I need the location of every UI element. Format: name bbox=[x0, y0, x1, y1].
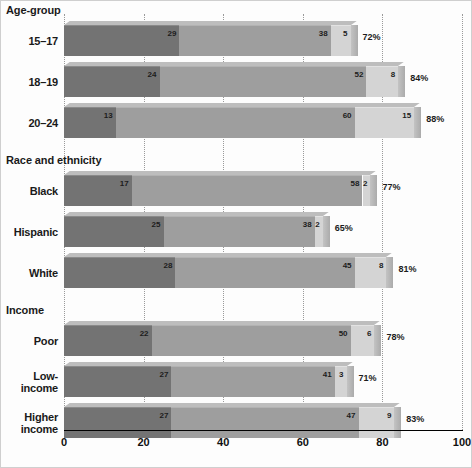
bar-right-cap bbox=[370, 175, 377, 206]
row-total-label-white: 81% bbox=[398, 264, 416, 274]
segment-value-label: 8 bbox=[379, 261, 383, 270]
bar-segment-poor-1: 22 bbox=[64, 325, 152, 356]
gridline-100 bbox=[462, 14, 464, 430]
segment-value-label: 25 bbox=[152, 220, 161, 229]
row-total-label-poor: 78% bbox=[386, 332, 404, 342]
category-label-white: White bbox=[0, 267, 58, 279]
row-total-label-higher-income: 83% bbox=[406, 414, 424, 424]
segment-value-label: 3 bbox=[339, 370, 343, 379]
bar-segment-low-income-1: 27 bbox=[64, 366, 171, 397]
row-total-label-hispanic: 65% bbox=[335, 223, 353, 233]
category-label-hispanic: Hispanic bbox=[0, 226, 58, 238]
row-total-label-low-income: 71% bbox=[359, 373, 377, 383]
segment-value-label: 2 bbox=[315, 220, 319, 229]
segment-value-label: 13 bbox=[104, 111, 113, 120]
category-label-20-24: 20–24 bbox=[0, 117, 58, 129]
segment-value-label: 58 bbox=[351, 179, 360, 188]
bar-right-cap bbox=[323, 216, 330, 247]
segment-value-label: 8 bbox=[391, 70, 395, 79]
bar-row: 22506 bbox=[64, 325, 381, 356]
x-tick-label-0: 0 bbox=[61, 436, 67, 448]
bar-segment-white-3: 8 bbox=[355, 257, 387, 288]
bar-segment-18-19-2: 52 bbox=[160, 66, 367, 97]
bar-segment-poor-3: 6 bbox=[351, 325, 375, 356]
bar-segment-hispanic-2: 38 bbox=[164, 216, 315, 247]
bar-right-cap bbox=[398, 66, 405, 97]
bar-right-cap bbox=[351, 25, 358, 56]
segment-value-label: 24 bbox=[148, 70, 157, 79]
bar-segment-poor-2: 50 bbox=[152, 325, 351, 356]
bar-segment-18-19-3: 8 bbox=[366, 66, 398, 97]
bar-segment-20-24-3: 15 bbox=[355, 107, 415, 138]
bar-row: 28458 bbox=[64, 257, 393, 288]
segment-value-label: 17 bbox=[120, 179, 129, 188]
bar-segment-black-3: 2 bbox=[363, 175, 371, 206]
row-total-label-18-19: 84% bbox=[410, 73, 428, 83]
x-tick-label-100: 100 bbox=[453, 436, 471, 448]
category-label-black: Black bbox=[0, 185, 58, 197]
bar-segment-20-24-2: 60 bbox=[116, 107, 355, 138]
bar-right-cap bbox=[374, 325, 381, 356]
bar-segment-higher-income-3: 9 bbox=[359, 407, 395, 438]
bar-segment-black-1: 17 bbox=[64, 175, 132, 206]
category-label-18-19: 18–19 bbox=[0, 76, 58, 88]
row-total-label-black: 77% bbox=[382, 182, 400, 192]
segment-value-label: 38 bbox=[319, 29, 328, 38]
bar-row: 25382 bbox=[64, 216, 330, 247]
category-label-higher-income: Higherincome bbox=[0, 411, 58, 435]
segment-value-label: 27 bbox=[160, 411, 169, 420]
x-tick-label-80: 80 bbox=[376, 436, 388, 448]
bar-right-cap bbox=[394, 407, 401, 438]
section-heading-age-group: Age-group bbox=[6, 4, 61, 16]
bar-row: 29385 bbox=[64, 25, 358, 56]
bar-row: 27479 bbox=[64, 407, 401, 438]
bar-row: 27413 bbox=[64, 366, 354, 397]
segment-value-label: 29 bbox=[168, 29, 177, 38]
bar-segment-higher-income-2: 47 bbox=[171, 407, 358, 438]
bar-row: 17582 bbox=[64, 175, 377, 206]
bar-segment-low-income-2: 41 bbox=[171, 366, 334, 397]
bar-segment-hispanic-3: 2 bbox=[315, 216, 323, 247]
segment-value-label: 9 bbox=[387, 411, 391, 420]
segment-value-label: 2 bbox=[363, 179, 367, 188]
segment-value-label: 45 bbox=[343, 261, 352, 270]
segment-value-label: 6 bbox=[367, 329, 371, 338]
bar-segment-15-17-1: 29 bbox=[64, 25, 179, 56]
row-total-label-20-24: 88% bbox=[426, 114, 444, 124]
bar-right-cap bbox=[347, 366, 354, 397]
bar-segment-15-17-2: 38 bbox=[179, 25, 330, 56]
section-heading-income: Income bbox=[6, 304, 44, 316]
segment-value-label: 41 bbox=[323, 370, 332, 379]
bar-segment-higher-income-1: 27 bbox=[64, 407, 171, 438]
segment-value-label: 27 bbox=[160, 370, 169, 379]
bar-row: 24528 bbox=[64, 66, 405, 97]
bar-segment-18-19-1: 24 bbox=[64, 66, 160, 97]
segment-value-label: 50 bbox=[339, 329, 348, 338]
segment-value-label: 52 bbox=[355, 70, 364, 79]
x-tick-label-20: 20 bbox=[137, 436, 149, 448]
segment-value-label: 15 bbox=[402, 111, 411, 120]
bar-segment-20-24-1: 13 bbox=[64, 107, 116, 138]
section-heading-race-and-ethnicity: Race and ethnicity bbox=[6, 154, 101, 166]
bar-segment-15-17-3: 5 bbox=[331, 25, 351, 56]
x-tick-label-40: 40 bbox=[217, 436, 229, 448]
segment-value-label: 60 bbox=[343, 111, 352, 120]
bar-right-cap bbox=[414, 107, 421, 138]
category-label-low-income: Low-income bbox=[0, 370, 58, 394]
segment-value-label: 47 bbox=[347, 411, 356, 420]
bar-segment-black-2: 58 bbox=[132, 175, 363, 206]
segment-value-label: 22 bbox=[140, 329, 149, 338]
category-label-poor: Poor bbox=[0, 335, 58, 347]
bar-right-cap bbox=[386, 257, 393, 288]
segment-value-label: 38 bbox=[303, 220, 312, 229]
bar-segment-white-2: 45 bbox=[175, 257, 354, 288]
row-total-label-15-17: 72% bbox=[363, 32, 381, 42]
stacked-bar-chart: Age-group15–1718–1920–24Race and ethnici… bbox=[0, 0, 472, 468]
bar-segment-white-1: 28 bbox=[64, 257, 175, 288]
bar-row: 136015 bbox=[64, 107, 421, 138]
bar-segment-hispanic-1: 25 bbox=[64, 216, 164, 247]
segment-value-label: 28 bbox=[164, 261, 173, 270]
bar-segment-low-income-3: 3 bbox=[335, 366, 347, 397]
segment-value-label: 5 bbox=[343, 29, 347, 38]
category-label-15-17: 15–17 bbox=[0, 35, 58, 47]
